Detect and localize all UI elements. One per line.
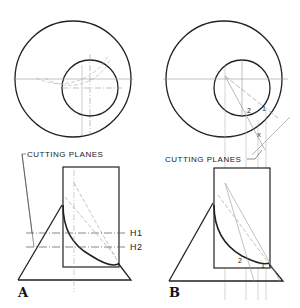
point-label-x: X <box>257 132 262 138</box>
panel-label-a: A <box>18 285 28 300</box>
cutting-planes-label-b: CUTTING PLANES <box>165 155 241 164</box>
panel-b-front-view <box>169 150 283 281</box>
plane-label-h1: H1 <box>130 228 143 238</box>
point-label-2-front: 2 <box>238 257 242 264</box>
panel-a-top-view <box>13 21 133 137</box>
point-label-1-top: 1 <box>262 105 266 112</box>
plane-label-h2: H2 <box>130 242 143 252</box>
point-label-2-top: 2 <box>247 107 251 114</box>
point-label-1-front: 1 <box>261 262 265 269</box>
cutting-planes-label-a: CUTTING PLANES <box>27 150 103 159</box>
panel-label-b: B <box>169 285 180 300</box>
panel-a-front-view <box>18 154 131 292</box>
